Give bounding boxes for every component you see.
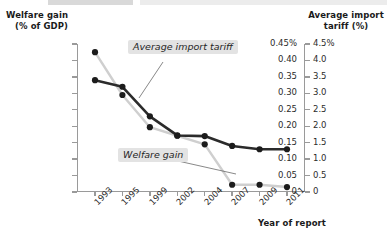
callout-leader-lines xyxy=(0,0,387,234)
callout-welfare-gain: Welfare gain xyxy=(118,148,188,162)
chart-figure: Welfare gain (% of GDP) Average import t… xyxy=(0,0,387,234)
callout-average-import-tariff: Average import tariff xyxy=(128,40,238,54)
